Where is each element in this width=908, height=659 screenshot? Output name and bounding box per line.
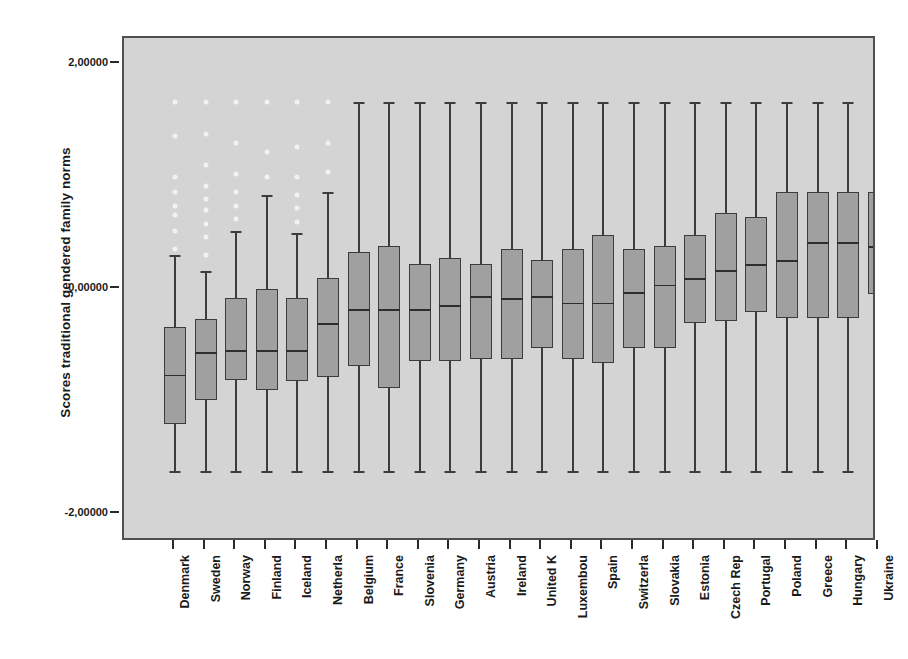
- outlier-point: [203, 253, 208, 258]
- x-tick-mark: [203, 540, 205, 549]
- whisker-lower: [755, 312, 757, 472]
- box-iqr: [409, 264, 431, 361]
- outlier-point: [203, 197, 208, 202]
- whisker-lower: [358, 366, 360, 472]
- whisker-upper: [541, 102, 543, 260]
- x-tick-mark: [325, 540, 327, 549]
- x-tick-mark: [386, 540, 388, 549]
- outlier-point: [295, 206, 300, 211]
- x-tick-mark: [172, 540, 174, 549]
- box-median-line: [531, 296, 553, 298]
- box-iqr: [807, 192, 829, 318]
- box-median-line: [837, 242, 859, 244]
- outlier-point: [295, 192, 300, 197]
- box-iqr: [470, 264, 492, 359]
- whisker-cap-upper: [567, 102, 578, 104]
- box-iqr: [868, 192, 875, 293]
- whisker-lower: [419, 361, 421, 471]
- whisker-lower: [694, 323, 696, 472]
- x-tick-label: Denmark: [178, 555, 192, 609]
- x-tick-label: Portugal: [759, 555, 773, 606]
- x-tick-mark: [233, 540, 235, 549]
- boxplot-figure: Scores traditional gendered family norms…: [0, 0, 908, 659]
- outlier-point: [234, 203, 239, 208]
- y-axis-ticks: 2,000000,00000-2,00000: [0, 0, 108, 659]
- box-iqr: [378, 246, 400, 388]
- x-tick-mark: [631, 540, 633, 549]
- box-iqr: [837, 192, 859, 318]
- whisker-cap-lower: [690, 471, 701, 473]
- box-iqr: [439, 258, 461, 362]
- whisker-cap-lower: [476, 471, 487, 473]
- outlier-point: [203, 163, 208, 168]
- box-plot-item: [344, 38, 374, 538]
- whisker-upper: [572, 102, 574, 248]
- box-iqr: [531, 260, 553, 348]
- whisker-lower: [388, 388, 390, 471]
- whisker-cap-upper: [170, 255, 181, 257]
- whisker-lower: [327, 377, 329, 472]
- outlier-point: [203, 235, 208, 240]
- box-plot-item: [374, 38, 404, 538]
- whisker-upper: [388, 102, 390, 246]
- box-plot-item: [435, 38, 465, 538]
- box-plot-item: [588, 38, 618, 538]
- x-tick-label: Ukraine: [882, 555, 896, 601]
- whisker-lower: [205, 400, 207, 471]
- box-median-line: [684, 278, 706, 280]
- y-tick-label: -2,00000: [8, 506, 108, 518]
- whisker-cap-lower: [720, 471, 731, 473]
- box-plot-item: [252, 38, 282, 538]
- whisker-upper: [817, 102, 819, 192]
- x-tick-mark: [447, 540, 449, 549]
- box-plot-item: [741, 38, 771, 538]
- whisker-cap-lower: [292, 471, 303, 473]
- whisker-upper: [358, 102, 360, 252]
- whisker-lower: [786, 318, 788, 471]
- whisker-cap-lower: [445, 471, 456, 473]
- whisker-cap-upper: [751, 102, 762, 104]
- whisker-lower: [817, 318, 819, 471]
- whisker-cap-upper: [720, 102, 731, 104]
- outlier-point: [295, 174, 300, 179]
- box-iqr: [776, 192, 798, 318]
- box-plot-item: [497, 38, 527, 538]
- whisker-upper: [511, 102, 513, 248]
- whisker-cap-lower: [261, 471, 272, 473]
- whisker-cap-upper: [231, 231, 242, 233]
- box-median-line: [378, 309, 400, 311]
- whisker-lower: [235, 380, 237, 471]
- box-median-line: [776, 260, 798, 262]
- box-median-line: [592, 303, 614, 305]
- whisker-cap-upper: [414, 102, 425, 104]
- whisker-upper: [449, 102, 451, 257]
- box-median-line: [317, 323, 339, 325]
- outlier-point: [234, 190, 239, 195]
- outlier-point: [295, 145, 300, 150]
- x-tick-mark: [600, 540, 602, 549]
- whisker-upper: [296, 233, 298, 298]
- whisker-lower: [664, 348, 666, 472]
- x-tick-label: Czech Rep: [729, 555, 743, 619]
- x-tick-mark: [815, 540, 817, 549]
- box-iqr: [654, 246, 676, 347]
- box-iqr: [623, 249, 645, 348]
- whisker-cap-lower: [384, 471, 395, 473]
- box-iqr: [286, 298, 308, 381]
- whisker-lower: [266, 390, 268, 471]
- whisker-upper: [174, 255, 176, 327]
- x-tick-label: Netherla: [331, 555, 345, 605]
- whisker-cap-upper: [323, 192, 334, 194]
- y-tick-mark: [110, 61, 119, 63]
- whisker-lower: [296, 381, 298, 471]
- box-plot-item: [803, 38, 833, 538]
- box-iqr: [501, 249, 523, 359]
- plot-area: [122, 36, 875, 540]
- whisker-upper: [266, 195, 268, 290]
- whisker-cap-lower: [659, 471, 670, 473]
- whisker-cap-lower: [353, 471, 364, 473]
- whisker-cap-lower: [812, 471, 823, 473]
- box-plot-item: [191, 38, 221, 538]
- outlier-point: [203, 221, 208, 226]
- whisker-cap-upper: [476, 102, 487, 104]
